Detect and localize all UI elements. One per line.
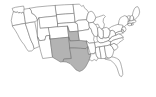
state-new-mexico[interactable]: [50, 35, 71, 62]
state-colorado[interactable]: [49, 26, 69, 39]
us-map-svg: [0, 0, 156, 97]
state-north-dakota[interactable]: [55, 4, 74, 14]
map-states-layer: [11, 4, 139, 77]
state-south-dakota[interactable]: [57, 13, 75, 23]
state-wyoming[interactable]: [39, 16, 58, 28]
state-maine[interactable]: [132, 7, 139, 20]
state-florida[interactable]: [105, 57, 123, 77]
us-choropleth-map: [0, 0, 156, 97]
